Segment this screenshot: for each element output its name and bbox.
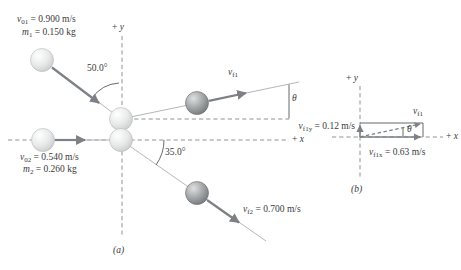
vf2-arrow — [207, 200, 239, 223]
ball1-at-collision — [110, 108, 133, 131]
y-axis-symbol-a: y — [120, 22, 124, 32]
label-theta-a: θ — [292, 93, 297, 104]
theta-symbol-a: θ — [292, 93, 297, 103]
label-v01: v01 = 0.900 m/s — [17, 14, 76, 25]
vf1x-value: = 0.63 m/s — [383, 147, 426, 157]
x-axis-plus-a: + — [292, 134, 300, 144]
collision-figure: v01 = 0.900 m/s m1 = 0.150 kg v02 = 0.54… — [0, 0, 461, 270]
label-theta-b: θ — [407, 124, 412, 135]
vf1-arrow — [209, 93, 246, 101]
diagram-canvas — [0, 0, 461, 270]
label-x-axis-a: + x — [292, 134, 304, 145]
label-vf1x: vf1x = 0.63 m/s — [369, 147, 425, 158]
m1-symbol: m — [22, 27, 29, 37]
v01-value: = 0.900 m/s — [28, 14, 76, 24]
angle-arc-50 — [92, 83, 119, 98]
x-axis-plus-b: + — [446, 131, 454, 141]
ball2-initial — [32, 129, 55, 152]
y-axis-plus-b: + — [346, 73, 354, 83]
y-axis-symbol-b: y — [354, 73, 358, 83]
ball2-at-collision — [110, 129, 133, 152]
label-x-axis-b: + x — [446, 131, 458, 142]
label-m1: m1 = 0.150 kg — [22, 27, 76, 38]
x-axis-symbol-a: x — [300, 134, 304, 144]
theta-symbol-b: θ — [407, 124, 412, 134]
ball2-final — [186, 182, 209, 205]
vf1y-subscript: f1y — [303, 125, 312, 133]
ball1-final — [186, 92, 209, 115]
m2-symbol: m — [23, 164, 30, 174]
angle-arc-35 — [156, 140, 164, 165]
label-vf1-b: vf1 — [413, 106, 423, 117]
vf1x-subscript: f1x — [373, 151, 382, 159]
label-vf1-a: vf1 — [228, 67, 238, 78]
label-y-axis-b: + y — [346, 73, 358, 84]
vf1-subscript-b: f1 — [417, 110, 423, 118]
label-vf2: vf2 = 0.700 m/s — [243, 204, 301, 215]
vf2-value: = 0.700 m/s — [253, 204, 301, 214]
caption-a: (a) — [113, 245, 124, 256]
label-vf1y: vf1y = 0.12 m/s — [283, 121, 355, 132]
v02-value: = 0.540 m/s — [31, 152, 79, 162]
label-v02: v02 = 0.540 m/s — [20, 152, 79, 163]
y-axis-plus-a: + — [112, 22, 120, 32]
m2-value: = 0.260 kg — [33, 164, 76, 174]
vf1y-value: = 0.12 m/s — [312, 121, 355, 131]
caption-b: (b) — [351, 184, 362, 195]
label-angle-35: 35.0° — [165, 147, 185, 158]
vf1-subscript-a: f1 — [232, 71, 238, 79]
label-m2: m2 = 0.260 kg — [23, 164, 77, 175]
label-y-axis-a: + y — [112, 22, 124, 33]
x-axis-symbol-b: x — [454, 131, 458, 141]
label-angle-50: 50.0° — [87, 63, 107, 74]
m1-value: = 0.150 kg — [32, 27, 75, 37]
ball1-initial — [31, 49, 54, 72]
